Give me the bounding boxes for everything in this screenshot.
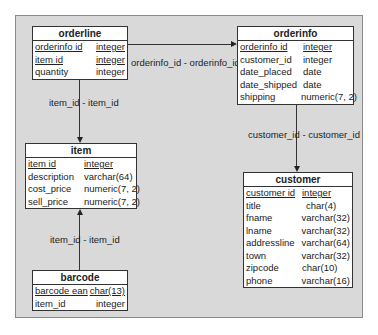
table-title: item <box>26 144 136 158</box>
table-row: townvarchar(32) <box>244 250 352 263</box>
table-customer[interactable]: customer customer idinteger titlechar(4)… <box>243 172 353 288</box>
table-row: shippingnumeric(7, 2) <box>238 91 353 104</box>
table-row: titlechar(4) <box>244 200 352 213</box>
table-row: orderinfo idinteger <box>238 41 353 54</box>
table-row: cost_pricenumeric(7, 2) <box>26 183 136 196</box>
table-row: customer idinteger <box>244 187 352 200</box>
table-row: barcode eanchar(13) <box>33 285 127 298</box>
table-title: orderline <box>33 27 127 41</box>
table-title: barcode <box>33 271 127 285</box>
table-row: date_placeddate <box>238 66 353 79</box>
table-row: date_shippeddate <box>238 79 353 92</box>
table-row: quantityinteger <box>33 66 127 79</box>
table-row: orderinfo idinteger <box>33 41 127 54</box>
table-item[interactable]: item item idinteger descriptionvarchar(6… <box>25 143 137 209</box>
arrowhead-icon <box>77 209 83 215</box>
table-row: item_idinteger <box>33 298 127 311</box>
table-barcode[interactable]: barcode barcode eanchar(13) item_idinteg… <box>32 270 128 311</box>
relationship-label-barcode: item_id - item_id <box>50 234 120 245</box>
table-orderline[interactable]: orderline orderinfo idinteger item idint… <box>32 26 128 80</box>
table-orderinfo[interactable]: orderinfo orderinfo idinteger customer_i… <box>237 26 354 105</box>
table-row: sell_pricenumeric(7, 2) <box>26 196 136 209</box>
relationship-label-item: item_id - item_id <box>49 97 119 108</box>
relationship-label-customer: customer_id - customer_id <box>248 129 360 140</box>
table-title: customer <box>244 173 352 187</box>
table-title: orderinfo <box>238 27 353 41</box>
table-row: phonevarchar(16) <box>244 275 352 288</box>
table-row: zipcodechar(10) <box>244 262 352 275</box>
table-row: descriptionvarchar(64) <box>26 171 136 184</box>
table-row: addresslinevarchar(64) <box>244 237 352 250</box>
table-row: lnamevarchar(32) <box>244 225 352 238</box>
table-row: customer_idinteger <box>238 54 353 67</box>
table-row: item idinteger <box>26 158 136 171</box>
table-row: fnamevarchar(32) <box>244 212 352 225</box>
relationship-line-orderline-orderinfo <box>128 44 231 45</box>
relationship-label-orderinfo: orderinfo_id - orderinfo_id <box>131 57 240 68</box>
table-row: item idinteger <box>33 54 127 67</box>
